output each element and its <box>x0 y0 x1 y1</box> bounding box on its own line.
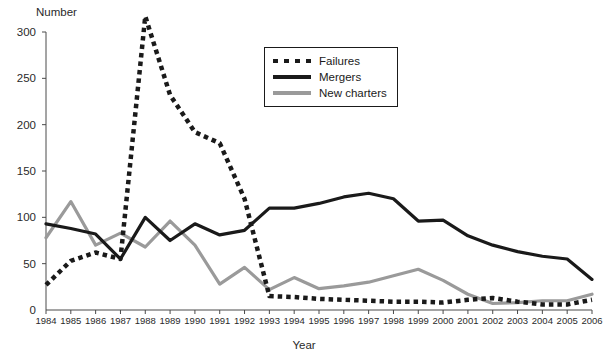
legend-item-failures: Failures <box>273 53 387 69</box>
series-line-new-charters <box>46 202 592 304</box>
legend-label-new-charters: New charters <box>319 87 387 99</box>
legend-swatch-solid-gray-icon <box>273 88 311 99</box>
legend-label-mergers: Mergers <box>319 71 361 83</box>
legend-item-mergers: Mergers <box>273 69 387 85</box>
legend-item-new-charters: New charters <box>273 85 387 101</box>
chart-legend: Failures Mergers New charters <box>264 47 398 107</box>
chart-container: Number 050100150200250300 19841985198619… <box>0 0 608 361</box>
x-axis-title: Year <box>0 339 608 351</box>
legend-swatch-solid-black-icon <box>273 72 311 83</box>
legend-label-failures: Failures <box>319 55 360 67</box>
legend-swatch-dotted-icon <box>273 56 311 67</box>
